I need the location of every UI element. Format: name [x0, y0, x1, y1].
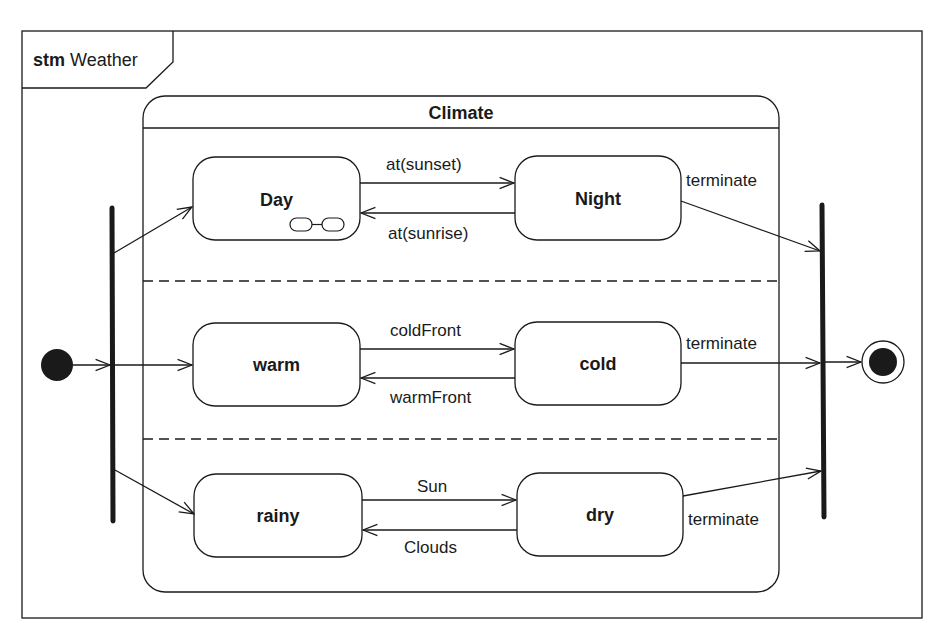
transition-label-terminate-3: terminate [688, 511, 759, 528]
dry-terminate-transition[interactable] [683, 471, 821, 496]
frame-title: stm Weather [33, 51, 138, 69]
transition-label-terminate-1: terminate [686, 172, 757, 189]
join-bar[interactable] [822, 205, 824, 517]
frame-name: Weather [70, 50, 138, 70]
state-warm-label: warm [193, 356, 360, 374]
transition-label-coldfront: coldFront [390, 322, 461, 339]
state-machine-diagram [0, 0, 942, 634]
transition-label-terminate-2: terminate [686, 335, 757, 352]
state-day-label: Day [193, 191, 360, 209]
state-night-label: Night [515, 190, 681, 208]
state-rainy-label: rainy [194, 507, 362, 525]
fork-to-day-transition[interactable] [114, 207, 192, 253]
state-cold-label: cold [515, 355, 681, 373]
transition-label-clouds: Clouds [404, 539, 457, 556]
fork-to-rainy-transition[interactable] [115, 470, 194, 514]
final-node[interactable] [862, 341, 904, 383]
transition-label-at-sunset: at(sunset) [386, 156, 462, 173]
state-dry-label: dry [517, 506, 683, 524]
transition-label-sun: Sun [417, 478, 447, 495]
initial-node[interactable] [41, 349, 73, 381]
transition-label-at-sunrise: at(sunrise) [388, 225, 468, 242]
transition-label-warmfront: warmFront [390, 389, 471, 406]
climate-state-name: Climate [143, 104, 779, 122]
frame-kind: stm [33, 50, 65, 70]
fork-bar[interactable] [112, 208, 113, 521]
night-terminate-transition[interactable] [681, 201, 820, 251]
